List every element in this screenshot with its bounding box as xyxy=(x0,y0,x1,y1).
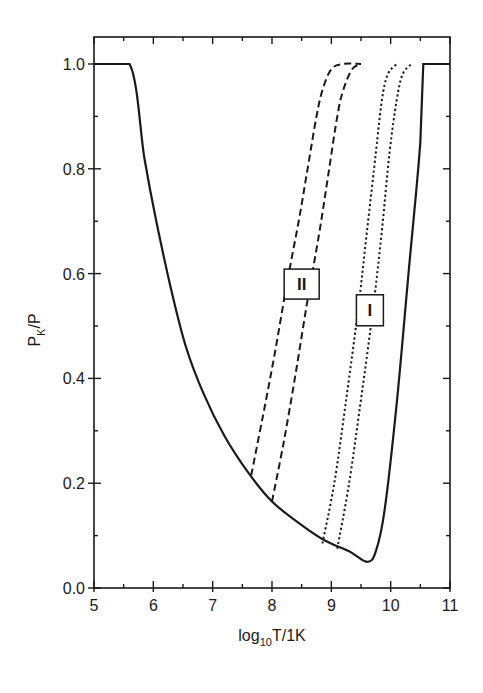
annotation-label: I xyxy=(368,301,373,320)
curve-annotations: III xyxy=(284,269,383,326)
y-tick-label: 0.0 xyxy=(63,580,85,597)
y-tick-label: 0.2 xyxy=(63,475,85,492)
x-tick-label: 8 xyxy=(268,597,277,614)
annotation-label: II xyxy=(297,275,306,294)
y-tick-label: 0.8 xyxy=(63,161,85,178)
x-tick-label: 11 xyxy=(442,597,459,614)
y-tick-label: 0.4 xyxy=(63,370,85,387)
x-axis-title: log10T/1K xyxy=(238,627,306,648)
x-tick-label: 10 xyxy=(382,597,400,614)
series-solid-boundary xyxy=(94,64,450,562)
plot-border xyxy=(94,37,450,588)
x-tick-label: 6 xyxy=(149,597,158,614)
y-tick-label: 0.6 xyxy=(63,266,85,283)
x-tick-label: 9 xyxy=(327,597,336,614)
chart-canvas: 5678910110.00.20.40.60.81.0 III log10T/1… xyxy=(0,0,483,693)
axis-ticks: 5678910110.00.20.40.60.81.0 xyxy=(63,37,459,614)
x-tick-label: 5 xyxy=(90,597,99,614)
data-curves xyxy=(94,64,450,562)
x-tick-label: 7 xyxy=(208,597,217,614)
y-axis-title: PK/P xyxy=(26,313,47,346)
y-tick-label: 1.0 xyxy=(63,56,85,73)
plot-frame xyxy=(94,37,450,588)
